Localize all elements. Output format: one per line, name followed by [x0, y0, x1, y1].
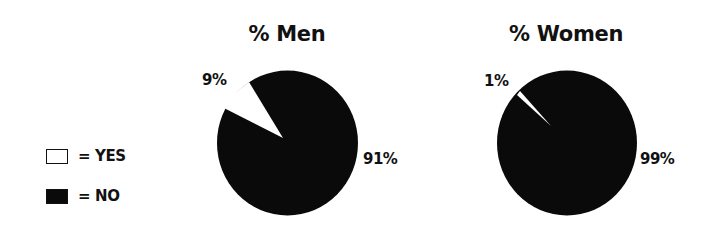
legend-swatch-yes: [46, 149, 68, 164]
men-no-percent-label: 91%: [363, 150, 397, 168]
legend-label-no: = NO: [78, 187, 120, 205]
women-no-percent-label: 99%: [640, 150, 674, 168]
men-yes-percent-label: 9%: [202, 71, 226, 89]
men-pie-chart: [217, 71, 358, 216]
women-no-slice: [497, 71, 637, 216]
legend-swatch-no: [46, 189, 68, 204]
women-yes-percent-label: 1%: [484, 72, 508, 90]
legend-item-no: = NO: [46, 188, 120, 204]
legend-label-yes: = YES: [78, 147, 126, 165]
women-pie-chart: [497, 71, 637, 216]
legend-item-yes: = YES: [46, 148, 126, 164]
